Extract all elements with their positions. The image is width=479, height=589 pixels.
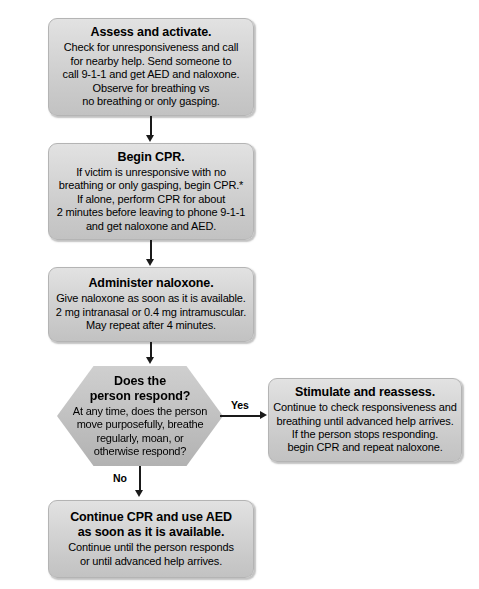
- node-stimulate-body: Continue to check responsiveness and bre…: [273, 401, 457, 455]
- decision-respond-body: At any time, does the person move purpos…: [73, 405, 207, 459]
- decision-respond-line-4: otherwise respond?: [73, 445, 207, 458]
- node-continue-title: Continue CPR and use AED as soon as it i…: [70, 510, 232, 540]
- node-naloxone-line-3: May repeat after 4 minutes.: [56, 319, 246, 332]
- connector-decision-yes: [220, 415, 262, 417]
- node-naloxone-line-2: 2 mg intranasal or 0.4 mg intramuscular.: [56, 306, 246, 319]
- node-assess-line-4: Observe for breathing vs: [63, 82, 240, 95]
- decision-respond-title-line-1: Does the: [90, 374, 191, 389]
- node-stimulate-title: Stimulate and reassess.: [295, 385, 435, 400]
- node-assess-line-5: no breathing or only gasping.: [63, 95, 240, 108]
- arrowhead-assess-to-begincpr: [146, 135, 154, 142]
- connector-begincpr-to-naloxone: [150, 240, 152, 261]
- node-naloxone-title: Administer naloxone.: [88, 276, 213, 291]
- node-stimulate-line-2: breathing until advanced help arrives.: [273, 415, 457, 428]
- decision-respond-line-2: move purposefully, breathe: [73, 418, 207, 431]
- arrowhead-begincpr-to-naloxone: [146, 259, 154, 266]
- edge-label-yes: Yes: [231, 399, 249, 411]
- node-begin-cpr-line-3: If alone, perform CPR for about: [57, 193, 246, 206]
- arrowhead-decision-no: [135, 490, 143, 497]
- node-begin-cpr-title: Begin CPR.: [117, 150, 184, 165]
- node-begin-cpr-body: If victim is unresponsive with no breath…: [57, 166, 246, 233]
- node-stimulate-line-1: Continue to check responsiveness and: [273, 401, 457, 414]
- edge-label-no: No: [113, 472, 127, 484]
- node-naloxone-line-1: Give naloxone as soon as it is available…: [56, 292, 246, 305]
- node-continue-body: Continue until the person responds or un…: [68, 541, 234, 568]
- decision-respond-title-line-2: person respond?: [90, 389, 191, 404]
- node-continue-title-line-2: as soon as it is available.: [70, 525, 232, 540]
- connector-assess-to-begincpr: [150, 116, 152, 137]
- node-continue-cpr-use-aed[interactable]: Continue CPR and use AED as soon as it i…: [48, 500, 254, 578]
- arrowhead-decision-yes: [260, 411, 267, 419]
- node-assess-line-3: call 9-1-1 and get AED and naloxone.: [63, 68, 240, 81]
- decision-respond-line-3: regularly, moan, or: [73, 432, 207, 445]
- node-assess-line-1: Check for unresponsiveness and call: [63, 41, 240, 54]
- decision-does-person-respond[interactable]: Does the person respond? At any time, do…: [57, 366, 223, 466]
- node-begin-cpr-line-4: 2 minutes before leaving to phone 9-1-1: [57, 206, 246, 219]
- node-assess-body: Check for unresponsiveness and call for …: [63, 41, 240, 108]
- node-assess-and-activate[interactable]: Assess and activate. Check for unrespons…: [48, 18, 254, 116]
- node-begin-cpr-line-1: If victim is unresponsive with no: [57, 166, 246, 179]
- node-begin-cpr[interactable]: Begin CPR. If victim is unresponsive wit…: [48, 143, 254, 240]
- flowchart-canvas: Assess and activate. Check for unrespons…: [0, 0, 479, 589]
- node-begin-cpr-line-5: and get naloxone and AED.: [57, 220, 246, 233]
- node-stimulate-line-4: begin CPR and repeat naloxone.: [273, 441, 457, 454]
- decision-respond-line-1: At any time, does the person: [73, 405, 207, 418]
- node-administer-naloxone[interactable]: Administer naloxone. Give naloxone as so…: [48, 267, 254, 342]
- node-assess-title: Assess and activate.: [91, 25, 212, 40]
- node-assess-line-2: for nearby help. Send someone to: [63, 55, 240, 68]
- arrowhead-naloxone-to-decision: [146, 357, 154, 364]
- node-stimulate-line-3: If the person stops responding.: [273, 428, 457, 441]
- node-continue-line-2: or until advanced help arrives.: [68, 555, 234, 568]
- node-continue-line-1: Continue until the person responds: [68, 541, 234, 554]
- node-stimulate-and-reassess[interactable]: Stimulate and reassess. Continue to chec…: [268, 378, 462, 462]
- connector-decision-no: [139, 466, 141, 492]
- node-naloxone-body: Give naloxone as soon as it is available…: [56, 292, 246, 332]
- decision-respond-title: Does the person respond?: [90, 374, 191, 404]
- node-continue-title-line-1: Continue CPR and use AED: [70, 510, 232, 525]
- node-begin-cpr-line-2: breathing or only gasping, begin CPR.*: [57, 179, 246, 192]
